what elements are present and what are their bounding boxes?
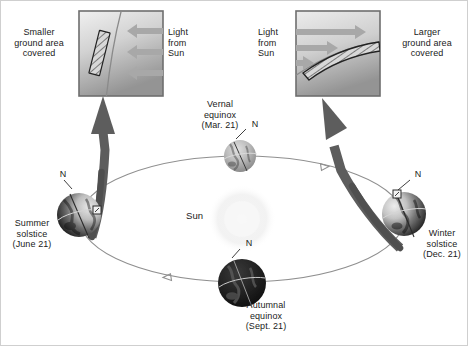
autumnal-equinox-pole-label: N [243,239,255,248]
inset-left-caption: Smaller ground area covered [2,27,76,59]
autumnal-equinox-label: Autumnal equinox (Sept. 21) [232,300,300,332]
seasons-diagram: Smaller ground area covered Light from S… [0,0,468,346]
winter-solstice-label: Winter solstice (Dec. 21) [418,228,466,260]
inset-panel-right [292,11,384,96]
vernal-equinox-label: Vernal equinox (Mar. 21) [190,99,250,131]
inset-right-caption: Larger ground area covered [388,27,466,59]
inset-panel-left [79,8,163,100]
winter-solstice-pole-label: N [412,170,424,179]
summer-solstice-pole-label: N [57,170,69,179]
inset-right-light-label: Light from Sun [258,27,298,59]
inset-left-light-label: Light from Sun [168,27,208,59]
sun-glow [208,185,276,253]
sun-label: Sun [186,211,216,222]
light-ray-arrows-left [127,24,163,80]
summer-solstice-label: Summer solstice (June 21) [6,218,58,250]
vernal-equinox-pole-label: N [249,120,261,129]
